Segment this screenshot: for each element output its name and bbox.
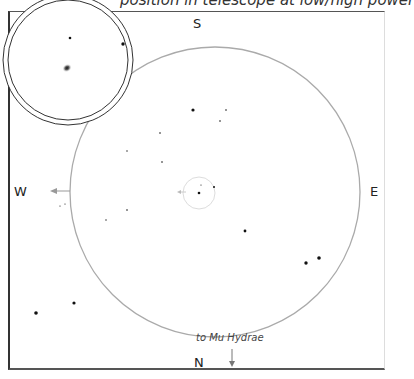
star-icon	[191, 108, 194, 111]
star-icon	[126, 209, 128, 211]
inset-inner-ring	[8, 0, 128, 120]
star-icon	[105, 219, 106, 220]
direction-south: S	[193, 16, 201, 31]
direction-east: E	[370, 184, 378, 199]
star-icon	[317, 256, 321, 260]
star-icon	[121, 42, 124, 45]
star-icon	[304, 261, 307, 264]
arrow-down-icon	[229, 361, 235, 367]
direction-north: N	[194, 355, 204, 370]
star-icon	[198, 192, 201, 195]
star-icon	[219, 120, 221, 122]
direction-west: W	[14, 184, 27, 199]
star-icon	[213, 186, 215, 188]
star-icon	[161, 161, 163, 163]
star-icon	[69, 37, 72, 40]
star-icon	[225, 109, 227, 111]
mu-hydrae-label: to Mu Hydrae	[196, 332, 264, 343]
star-field	[34, 108, 321, 314]
star-icon	[159, 132, 161, 134]
west-arrow-icon	[50, 188, 57, 194]
star-icon	[34, 311, 38, 315]
target-pointer-icon	[177, 190, 181, 194]
star-icon	[59, 205, 60, 206]
star-icon	[244, 230, 247, 233]
star-icon	[200, 184, 201, 185]
star-icon	[72, 301, 75, 304]
star-icon	[126, 150, 127, 151]
star-icon	[64, 203, 65, 204]
